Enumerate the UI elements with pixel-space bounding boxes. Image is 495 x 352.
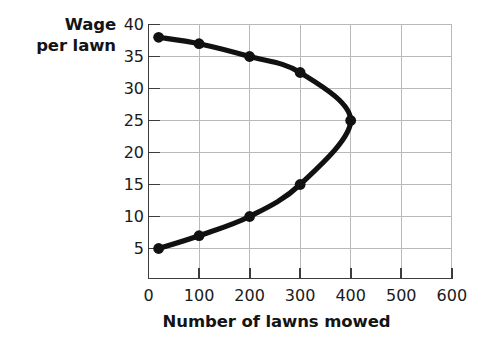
x-tick-label: 500 [386,288,417,304]
x-tick-label: 0 [143,288,153,304]
data-point-marker [194,38,205,49]
data-point-marker [153,32,164,43]
data-markers [153,32,356,254]
x-axis-tick-labels: 0100200300400500600 [0,288,495,312]
data-point-marker [295,179,306,190]
data-point-marker [244,51,255,62]
data-point-marker [153,243,164,254]
gridlines [149,25,452,279]
x-axis-label: Number of lawns mowed [0,312,495,331]
data-point-marker [194,230,205,241]
data-point-marker [345,115,356,126]
chart-container: Wage per lawn 510152025303540 0100200300… [0,0,495,352]
x-tick-label: 100 [184,288,215,304]
data-point-marker [295,67,306,78]
x-tick-label: 400 [335,288,366,304]
x-tick-label: 600 [437,288,468,304]
x-tick-label: 200 [234,288,265,304]
x-tick-label: 300 [285,288,316,304]
data-point-marker [244,211,255,222]
